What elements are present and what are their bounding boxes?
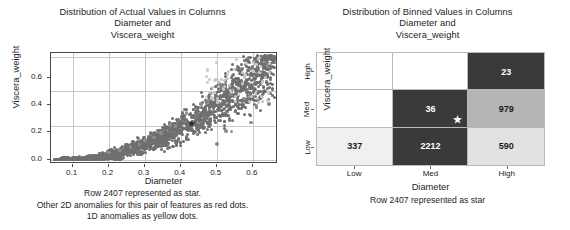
heatmap-x-tick-mark	[354, 166, 355, 169]
heatmap-title-line-2: Diameter and	[285, 18, 570, 29]
heatmap-x-tick-mark	[507, 166, 508, 169]
heatmap-cell[interactable]: 590	[468, 128, 544, 165]
heatmap-x-category-label: Low	[316, 169, 392, 178]
heatmap-cell[interactable]: 23	[468, 53, 544, 90]
heatmap-cell-value: 979	[499, 104, 514, 114]
heatmap-title-line-1: Distribution of Binned Values in Columns	[285, 7, 570, 18]
heatmap-y-tick-mark	[311, 147, 314, 148]
heatmap-cell[interactable]: 2212	[393, 128, 469, 165]
scatter-x-tick-mark	[252, 164, 253, 167]
scatter-caption: Row 2407 represented as star. Other 2D a…	[0, 188, 285, 223]
heatmap-cell-value: 2212	[420, 141, 440, 151]
heatmap-x-axis: LowMedHigh	[316, 169, 545, 181]
heatmap-cell[interactable]: 337	[317, 128, 393, 165]
heatmap-y-axis-label: Viscera_weight	[322, 31, 332, 127]
heatmap-caption: Row 2407 represented as star	[285, 195, 570, 205]
heatmap-cell[interactable]: 36★	[393, 90, 469, 127]
scatter-x-tick-mark	[72, 164, 73, 167]
heatmap-x-axis-label: Diameter	[316, 182, 545, 192]
figure-canvas: Distribution of Actual Values in Columns…	[0, 0, 570, 230]
heatmap-grid: 2336★9793372212590	[316, 52, 545, 166]
scatter-panel: Distribution of Actual Values in Columns…	[0, 0, 285, 230]
heatmap-cell-value: 23	[501, 67, 511, 77]
scatter-x-tick-mark	[180, 164, 181, 167]
heatmap-x-category-label: High	[469, 169, 545, 178]
scatter-y-axis-label: Viscera_weight	[11, 29, 21, 125]
scatter-x-tick-mark	[108, 164, 109, 167]
heatmap-cell-value: 590	[499, 141, 514, 151]
heatmap-highlight-star: ★	[453, 115, 462, 125]
heatmap-y-tick-mark	[311, 71, 314, 72]
scatter-caption-line-2: Other 2D anomalies for this pair of feat…	[0, 200, 285, 212]
scatter-x-axis-label: Diameter	[50, 176, 277, 186]
heatmap-x-category-label: Med	[392, 169, 468, 178]
scatter-caption-line-3: 1D anomalies as yellow dots.	[0, 211, 285, 223]
heatmap-cell-value: 337	[347, 141, 362, 151]
scatter-caption-line-1: Row 2407 represented as star.	[0, 188, 285, 200]
scatter-x-tick-mark	[216, 164, 217, 167]
heatmap-x-tick-mark	[430, 166, 431, 169]
heatmap-y-axis: HighMedLow	[300, 52, 314, 166]
heatmap-cell[interactable]	[393, 53, 469, 90]
scatter-x-tick-mark	[144, 164, 145, 167]
heatmap-cell[interactable]: 979	[468, 90, 544, 127]
heatmap-y-tick-mark	[311, 109, 314, 110]
heatmap-cell-value: 36	[425, 104, 435, 114]
